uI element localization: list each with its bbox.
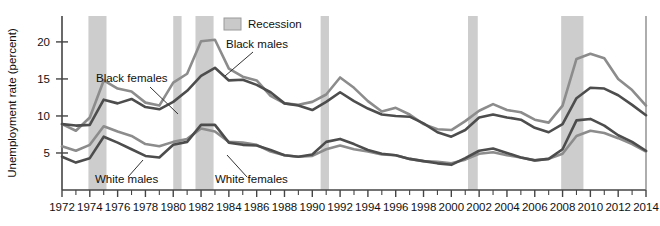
x-tick-label: 1976 (105, 201, 131, 213)
x-tick-label: 2002 (466, 201, 492, 213)
chart-canvas: 5101520 19721974197619781980198219841986… (0, 0, 660, 226)
x-tick-label: 1972 (49, 201, 75, 213)
x-tick-label: 1986 (244, 201, 270, 213)
annotation-label: Black females (96, 72, 168, 84)
x-tick-label: 1992 (327, 201, 353, 213)
x-tick-label: 1988 (272, 201, 298, 213)
annotation-label: White males (95, 173, 159, 185)
x-tick-label: 2014 (633, 201, 659, 213)
x-tick-label: 1974 (77, 201, 103, 213)
data-series-group (62, 40, 646, 165)
y-tick-label: 10 (37, 110, 50, 122)
y-axis-ticks-group: 5101520 (37, 36, 68, 159)
x-tick-label: 1980 (160, 201, 186, 213)
recession-band (468, 16, 478, 190)
annotation-label: White females (215, 173, 288, 185)
x-tick-label: 2012 (605, 201, 631, 213)
x-tick-label: 2000 (439, 201, 465, 213)
recession-band (88, 16, 106, 190)
x-tick-label: 1994 (355, 201, 381, 213)
recession-bands-group (88, 16, 583, 190)
x-tick-label: 2004 (494, 201, 520, 213)
x-tick-label: 1996 (383, 201, 409, 213)
x-axis-ticks-group: 1972197419761978198019821984198619881990… (49, 190, 659, 213)
annotation-label: Black males (226, 38, 288, 50)
x-tick-label: 2008 (550, 201, 576, 213)
y-tick-label: 15 (37, 73, 50, 85)
x-tick-label: 1998 (411, 201, 437, 213)
y-tick-label: 5 (44, 147, 50, 159)
legend-group: Recession (224, 18, 302, 30)
y-axis-title: Unemployment rate (percent) (6, 28, 18, 178)
annotation-leader-line (225, 52, 253, 76)
y-tick-label: 20 (37, 36, 50, 48)
x-tick-label: 1982 (188, 201, 214, 213)
x-tick-label: 1990 (299, 201, 325, 213)
recession-band (173, 16, 181, 190)
x-tick-label: 2006 (522, 201, 548, 213)
x-tick-label: 1984 (216, 201, 242, 213)
x-tick-label: 2010 (578, 201, 604, 213)
legend-recession-label: Recession (248, 18, 302, 30)
unemployment-rate-chart: 5101520 19721974197619781980198219841986… (0, 0, 660, 226)
series-line-black-males (62, 40, 646, 131)
legend-recession-swatch (224, 18, 241, 30)
x-tick-label: 1978 (133, 201, 159, 213)
